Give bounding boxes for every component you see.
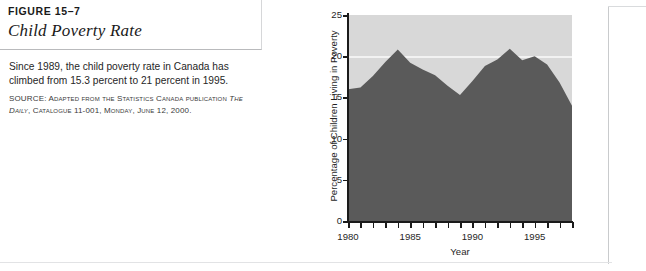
y-tick-15 <box>343 97 348 99</box>
source-label: SOURCE: <box>9 94 47 103</box>
x-tick-1987 <box>435 222 437 228</box>
x-tick-1988 <box>448 222 450 228</box>
x-tick-1989 <box>460 222 462 228</box>
x-tick-1985 <box>410 222 412 228</box>
plot-interior <box>348 15 572 221</box>
y-tick-5 <box>343 180 348 182</box>
y-tick-10 <box>343 139 348 141</box>
x-tick-label-1980: 1980 <box>328 231 368 242</box>
x-tick-1996 <box>547 222 549 228</box>
child-poverty-area-chart: Percentage of Children Living in Poverty… <box>300 8 600 264</box>
figure-page: FIGURE 15–7 Child Poverty Rate Since 198… <box>0 0 646 271</box>
y-axis-line <box>347 13 349 223</box>
x-axis-title: Year <box>348 246 572 257</box>
x-tick-1995 <box>535 222 537 228</box>
y-tick-label-20: 20 <box>316 51 342 61</box>
figure-source-note: SOURCE: Adapted from the Statistics Cana… <box>9 93 263 116</box>
y-tick-label-25: 25 <box>316 10 342 20</box>
x-tick-1998 <box>572 222 574 228</box>
source-text-second: , Catalogue 11-001, Monday, June 12, 200… <box>28 106 192 115</box>
x-tick-1997 <box>560 222 562 228</box>
y-axis-title: Percentage of Children Living in Poverty <box>328 16 339 216</box>
page-border-top-right <box>608 6 646 7</box>
figure-number: FIGURE 15–7 <box>8 5 81 17</box>
area-series-path <box>348 15 572 221</box>
x-tick-1990 <box>472 222 474 228</box>
figure-caption-box: FIGURE 15–7 Child Poverty Rate <box>0 0 262 50</box>
page-border-right <box>608 6 609 264</box>
x-tick-1992 <box>497 222 499 228</box>
source-text-first: Adapted from the Statistics Canada publi… <box>48 94 229 103</box>
x-tick-1984 <box>398 222 400 228</box>
y-tick-label-5: 5 <box>316 175 342 185</box>
x-tick-1991 <box>485 222 487 228</box>
x-tick-1982 <box>373 222 375 228</box>
y-tick-25 <box>343 15 348 17</box>
y-tick-label-10: 10 <box>316 134 342 144</box>
figure-title: Child Poverty Rate <box>8 21 142 41</box>
x-tick-1986 <box>423 222 425 228</box>
y-tick-label-15: 15 <box>316 92 342 102</box>
x-tick-1980 <box>348 222 350 228</box>
x-tick-label-1990: 1990 <box>452 231 492 242</box>
plot-area: 0510152025 1980198519901995 <box>348 15 572 229</box>
y-tick-20 <box>343 56 348 58</box>
x-tick-1981 <box>360 222 362 228</box>
x-tick-1983 <box>385 222 387 228</box>
y-tick-label-0: 0 <box>316 216 342 226</box>
x-tick-label-1985: 1985 <box>390 231 430 242</box>
figure-description: Since 1989, the child poverty rate in Ca… <box>9 60 261 88</box>
x-tick-label-1995: 1995 <box>515 231 555 242</box>
x-tick-1993 <box>510 222 512 228</box>
x-tick-1994 <box>522 222 524 228</box>
